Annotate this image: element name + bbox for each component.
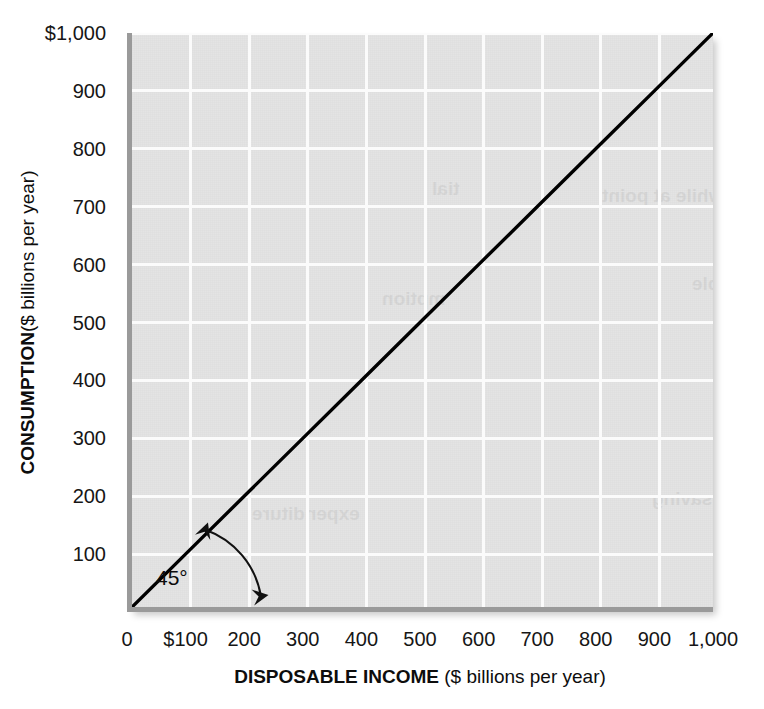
plot-area: that, while at pointtialdisposablemption… bbox=[127, 33, 713, 612]
x-axis-tick-label: 500 bbox=[403, 628, 436, 651]
x-axis-tick-label: 400 bbox=[345, 628, 378, 651]
y-axis-tick-label: 900 bbox=[73, 79, 117, 102]
x-axis-title-strong: DISPOSABLE INCOME bbox=[234, 666, 439, 687]
x-axis-tick-labels: 0$1002003004005006007008009001,000 bbox=[127, 628, 713, 654]
x-axis-tick-label: 1,000 bbox=[688, 628, 738, 651]
y-axis-tick-label: 100 bbox=[73, 543, 117, 566]
y-axis-tick-label: 300 bbox=[73, 427, 117, 450]
x-axis-tick-label: 800 bbox=[579, 628, 612, 651]
x-axis-tick-label: 700 bbox=[521, 628, 554, 651]
y-axis-title-rest: ($ billions per year) bbox=[17, 170, 39, 332]
angle-arc-svg bbox=[132, 33, 713, 607]
y-axis-title: CONSUMPTION ($ billions per year) bbox=[14, 33, 42, 612]
x-axis-tick-label: 0 bbox=[121, 628, 132, 651]
x-axis-tick-label: 300 bbox=[286, 628, 319, 651]
y-axis-title-strong: CONSUMPTION bbox=[17, 332, 39, 475]
y-axis-tick-label: 500 bbox=[73, 311, 117, 334]
x-axis-tick-label: 600 bbox=[462, 628, 495, 651]
y-axis-tick-label: $1,000 bbox=[45, 22, 117, 45]
x-axis-tick-label: 200 bbox=[228, 628, 261, 651]
y-axis-tick-label: 800 bbox=[73, 137, 117, 160]
angle-annotation-label: 45° bbox=[156, 566, 188, 590]
page-bleed-fragment bbox=[232, 0, 352, 5]
y-axis-tick-label: 700 bbox=[73, 195, 117, 218]
x-axis-tick-label: 900 bbox=[638, 628, 671, 651]
y-axis-tick-label: 600 bbox=[73, 253, 117, 276]
x-axis-title: DISPOSABLE INCOME ($ billions per year) bbox=[127, 666, 713, 688]
x-axis-title-rest: ($ billions per year) bbox=[439, 666, 606, 687]
y-axis-tick-label: 200 bbox=[73, 485, 117, 508]
plot-inner: that, while at pointtialdisposablemption… bbox=[132, 33, 713, 607]
angle-arc-arrow bbox=[205, 530, 261, 596]
x-axis-tick-label: $100 bbox=[163, 628, 208, 651]
y-axis-tick-label: 400 bbox=[73, 369, 117, 392]
figure-consumption-45-degree-line: that, while at pointtialdisposablemption… bbox=[0, 0, 764, 709]
